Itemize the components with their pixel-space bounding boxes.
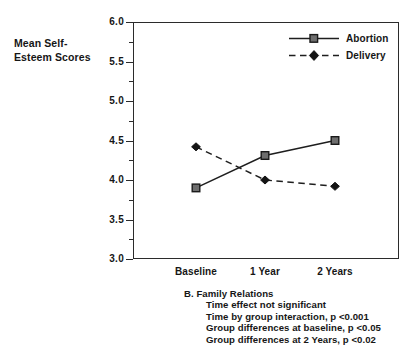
y-tick-label: 5.0 xyxy=(109,96,124,106)
y-tick-minor xyxy=(129,160,133,161)
y-tick-major xyxy=(126,220,133,221)
x-axis-label: 1 Year xyxy=(250,266,280,278)
y-tick-major xyxy=(126,180,133,181)
y-tick-major xyxy=(126,22,133,23)
figure-panel-b: Mean Self- Esteem Scores 3.03.54.04.55.0… xyxy=(0,0,412,349)
x-axis-label: 2 Years xyxy=(317,266,353,278)
y-tick-minor xyxy=(129,200,133,201)
legend-item-abortion: Abortion xyxy=(288,30,396,47)
caption-line-2: Time by group interaction, p <0.001 xyxy=(184,311,381,322)
x-axis-label: Baseline xyxy=(175,266,217,278)
y-tick-label: 3.0 xyxy=(109,254,124,264)
y-axis-title-line-2: Esteem Scores xyxy=(14,50,124,64)
y-tick-label: 4.0 xyxy=(109,175,124,185)
y-tick-major xyxy=(126,141,133,142)
y-tick-major xyxy=(126,101,133,102)
y-axis-title: Mean Self- Esteem Scores xyxy=(14,36,124,64)
y-tick-minor xyxy=(129,81,133,82)
legend: Abortion Delivery xyxy=(288,30,396,64)
legend-item-delivery: Delivery xyxy=(288,47,396,64)
y-tick-major xyxy=(126,259,133,260)
legend-sample-solid-open-square-icon xyxy=(288,30,340,47)
caption-line-4: Group differences at 2 Years, p <0.02 xyxy=(184,334,381,345)
y-axis-title-line-1: Mean Self- xyxy=(14,36,124,50)
caption-heading: B. Family Relations xyxy=(184,288,381,299)
legend-label-delivery: Delivery xyxy=(346,50,386,61)
legend-sample-dashed-filled-diamond-icon xyxy=(288,47,340,64)
caption-line-3: Group differences at baseline, p <0.05 xyxy=(184,322,381,333)
y-tick-label: 4.5 xyxy=(109,136,124,146)
y-tick-minor xyxy=(129,239,133,240)
legend-label-abortion: Abortion xyxy=(346,33,388,44)
caption-line-1: Time effect not significant xyxy=(184,299,381,310)
y-tick-minor xyxy=(129,42,133,43)
y-tick-label: 3.5 xyxy=(109,215,124,225)
y-tick-label: 5.5 xyxy=(109,57,124,67)
y-tick-major xyxy=(126,62,133,63)
y-tick-label: 6.0 xyxy=(109,17,124,27)
y-tick-minor xyxy=(129,121,133,122)
figure-caption: B. Family Relations Time effect not sign… xyxy=(184,288,381,345)
